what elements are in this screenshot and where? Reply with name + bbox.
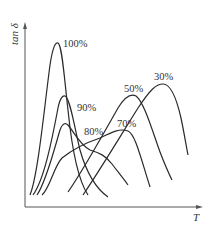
label-100: 100% — [63, 38, 88, 49]
y-axis-label: tan δ — [8, 22, 20, 45]
label-90: 90% — [77, 102, 97, 113]
x-axis-label: T — [193, 211, 200, 223]
curves — [30, 43, 188, 197]
curve-30 — [83, 84, 188, 195]
series-labels: 100% 90% 80% 70% 50% 30% — [63, 38, 174, 137]
y-axis-arrow-icon — [23, 22, 27, 29]
label-50: 50% — [124, 83, 144, 94]
label-30: 30% — [154, 71, 174, 82]
label-70: 70% — [117, 118, 137, 129]
tan-delta-vs-temperature-chart: tan δ T 100% 90% 80% 70% 50% 30% — [0, 0, 216, 230]
x-axis-arrow-icon — [196, 205, 203, 209]
label-80: 80% — [84, 126, 104, 137]
curve-100 — [30, 43, 88, 195]
